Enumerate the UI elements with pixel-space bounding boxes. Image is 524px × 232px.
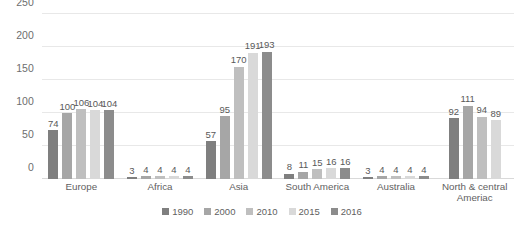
legend-item[interactable]: 1990 xyxy=(162,207,193,217)
bar-value-label: 4 xyxy=(185,165,190,175)
legend-swatch-icon xyxy=(331,208,338,215)
bar[interactable]: 104 xyxy=(90,110,100,179)
bar[interactable]: 193 xyxy=(262,52,272,179)
bar-slot: 170 xyxy=(232,14,246,179)
bar[interactable]: 8 xyxy=(284,174,294,179)
bar[interactable]: 104 xyxy=(104,110,114,179)
chart-legend: 19902000201020152016 xyxy=(0,207,524,217)
bar-value-label: 74 xyxy=(48,119,59,129)
bar[interactable]: 4 xyxy=(419,176,429,179)
bar-value-label: 4 xyxy=(393,165,398,175)
bar[interactable]: 4 xyxy=(405,176,415,179)
bar-value-label: 4 xyxy=(421,165,426,175)
y-axis-labels: 050100150200250 xyxy=(0,14,38,179)
bar-slot: 104 xyxy=(102,14,116,179)
bar-group: 921119489 xyxy=(435,14,514,179)
bar-slot: 4 xyxy=(153,14,167,179)
bar-slot: 8 xyxy=(282,14,296,179)
x-axis-category-label: Africa xyxy=(121,181,200,204)
bar[interactable]: 57 xyxy=(206,141,216,179)
bar-value-label: 3 xyxy=(129,166,134,176)
legend-label: 1990 xyxy=(172,207,193,217)
bar[interactable]: 3 xyxy=(363,177,373,179)
legend-label: 2010 xyxy=(256,207,277,217)
bar-slot: 4 xyxy=(181,14,195,179)
bar[interactable]: 95 xyxy=(220,116,230,179)
bar-value-label: 104 xyxy=(101,99,117,109)
legend-swatch-icon xyxy=(246,208,253,215)
bar[interactable]: 3 xyxy=(127,177,137,179)
bar-slot: 11 xyxy=(296,14,310,179)
bar-value-label: 4 xyxy=(143,165,148,175)
bar-value-label: 89 xyxy=(490,109,501,119)
bar[interactable]: 92 xyxy=(449,118,459,179)
bar-group: 34444 xyxy=(121,14,200,179)
bar[interactable]: 16 xyxy=(326,168,336,179)
legend-swatch-icon xyxy=(162,208,169,215)
bar[interactable]: 74 xyxy=(48,130,58,179)
bar-slot: 193 xyxy=(260,14,274,179)
legend-item[interactable]: 2000 xyxy=(204,207,235,217)
y-axis-tick-label: 50 xyxy=(22,128,34,140)
y-axis-tick-label: 150 xyxy=(16,62,34,74)
bar-value-label: 170 xyxy=(231,55,247,65)
bar[interactable]: 89 xyxy=(491,120,501,179)
legend-item[interactable]: 2015 xyxy=(289,207,320,217)
bar-chart: 050100150200250 741001061041043444457951… xyxy=(0,0,524,232)
bar-slot: 4 xyxy=(167,14,181,179)
bar-value-label: 11 xyxy=(298,160,308,170)
bar[interactable]: 191 xyxy=(248,53,258,179)
y-axis-tick-label: 0 xyxy=(28,161,34,173)
bar[interactable]: 4 xyxy=(155,176,165,179)
bar-slot: 3 xyxy=(125,14,139,179)
bar[interactable]: 100 xyxy=(62,113,72,179)
bar[interactable]: 94 xyxy=(477,117,487,179)
bar-value-label: 92 xyxy=(448,107,459,117)
bar-group: 34444 xyxy=(357,14,436,179)
bar[interactable]: 111 xyxy=(463,106,473,179)
bar-value-label: 57 xyxy=(205,130,216,140)
y-axis-tick-label: 250 xyxy=(16,0,34,8)
legend-item[interactable]: 2016 xyxy=(331,207,362,217)
bar-value-label: 95 xyxy=(219,105,230,115)
bar[interactable]: 15 xyxy=(312,169,322,179)
bar-value-label: 15 xyxy=(312,158,323,168)
bar-slot: 4 xyxy=(389,14,403,179)
bar-value-label: 16 xyxy=(340,157,351,167)
bar-slot: 104 xyxy=(88,14,102,179)
x-axis-category-label: Asia xyxy=(199,181,278,204)
bar[interactable]: 4 xyxy=(169,176,179,179)
bar-slot: 100 xyxy=(60,14,74,179)
bar-value-label: 3 xyxy=(365,166,370,176)
legend-label: 2015 xyxy=(299,207,320,217)
bar[interactable]: 4 xyxy=(377,176,387,179)
bar-group: 74100106104104 xyxy=(42,14,121,179)
bar-slot: 74 xyxy=(46,14,60,179)
bar-slot: 191 xyxy=(246,14,260,179)
bar[interactable]: 4 xyxy=(141,176,151,179)
bar-groups: 7410010610410434444579517019119381115161… xyxy=(42,14,514,179)
bar-slot: 92 xyxy=(447,14,461,179)
y-axis-tick-label: 100 xyxy=(16,95,34,107)
bar[interactable]: 11 xyxy=(298,172,308,179)
legend-item[interactable]: 2010 xyxy=(246,207,277,217)
bar[interactable]: 4 xyxy=(183,176,193,179)
bar-value-label: 4 xyxy=(157,165,162,175)
legend-label: 2000 xyxy=(214,207,235,217)
bar-group: 5795170191193 xyxy=(199,14,278,179)
bar-slot: 111 xyxy=(461,14,475,179)
bar[interactable]: 16 xyxy=(340,168,350,179)
bar[interactable]: 106 xyxy=(76,109,86,179)
bar-value-label: 193 xyxy=(259,40,275,50)
legend-swatch-icon xyxy=(289,208,296,215)
x-axis-category-label: Europe xyxy=(42,181,121,204)
bar-slot: 4 xyxy=(403,14,417,179)
bar[interactable]: 4 xyxy=(391,176,401,179)
bar-slot: 94 xyxy=(475,14,489,179)
x-axis-category-labels: EuropeAfricaAsiaSouth AmericaAustraliaNo… xyxy=(42,181,514,204)
bar-slot: 95 xyxy=(218,14,232,179)
x-axis-category-label: South America xyxy=(278,181,357,204)
x-axis-category-label: Australia xyxy=(357,181,436,204)
bar[interactable]: 170 xyxy=(234,67,244,179)
bar-value-label: 8 xyxy=(287,162,292,172)
